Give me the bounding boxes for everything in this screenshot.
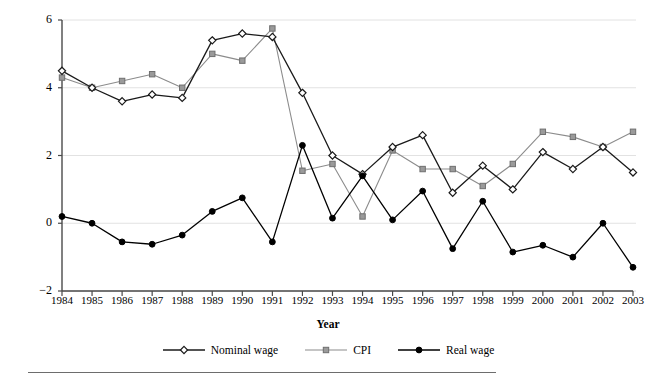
data-point-marker: [149, 241, 155, 247]
chart-figure: Annual percentage change Year −20246 198…: [0, 0, 656, 380]
data-point-marker: [330, 215, 336, 221]
data-point-marker: [330, 161, 335, 166]
data-point-marker: [480, 183, 485, 188]
series-line: [62, 145, 633, 267]
legend-label: Nominal wage: [211, 344, 278, 356]
series-real-wage: [59, 142, 636, 270]
data-point-marker: [360, 173, 366, 179]
data-point-marker: [510, 161, 515, 166]
data-point-marker: [300, 142, 306, 148]
data-point-marker: [239, 30, 246, 37]
data-point-marker: [119, 239, 125, 245]
x-tick-label: 2003: [613, 294, 653, 306]
data-point-marker: [269, 239, 275, 245]
data-point-marker: [240, 58, 245, 63]
legend-swatch: [397, 344, 441, 356]
data-point-marker: [540, 129, 545, 134]
series-line: [62, 28, 633, 216]
legend-label: Real wage: [446, 344, 494, 356]
data-point-marker: [179, 94, 186, 101]
data-point-marker: [450, 166, 455, 171]
series-nominal-wage: [58, 30, 636, 196]
data-point-marker: [149, 72, 154, 77]
data-point-marker: [179, 232, 185, 238]
data-point-marker: [360, 214, 365, 219]
data-point-marker: [600, 220, 606, 226]
data-point-marker: [180, 346, 187, 353]
data-point-marker: [209, 208, 215, 214]
footer-divider: [28, 372, 496, 373]
data-point-marker: [119, 98, 126, 105]
data-point-marker: [570, 134, 575, 139]
data-point-marker: [119, 78, 124, 83]
data-point-marker: [570, 254, 576, 260]
data-point-marker: [420, 166, 425, 171]
data-point-marker: [323, 347, 328, 352]
data-point-marker: [630, 129, 635, 134]
data-point-marker: [59, 75, 64, 80]
data-point-marker: [419, 132, 426, 139]
data-point-marker: [210, 51, 215, 56]
data-point-marker: [89, 220, 95, 226]
data-point-marker: [59, 214, 65, 220]
y-tick-label: 6: [28, 12, 52, 27]
data-point-marker: [300, 168, 305, 173]
data-point-marker: [299, 89, 306, 96]
chart-legend: Nominal wageCPIReal wage: [0, 344, 656, 356]
data-point-marker: [239, 195, 245, 201]
data-point-marker: [630, 264, 636, 270]
data-point-marker: [329, 152, 336, 159]
data-point-marker: [390, 217, 396, 223]
legend-swatch: [162, 344, 206, 356]
legend-item[interactable]: Real wage: [397, 344, 494, 356]
data-point-marker: [450, 246, 456, 252]
legend-item[interactable]: Nominal wage: [162, 344, 278, 356]
data-point-marker: [180, 85, 185, 90]
y-tick-label: 2: [28, 148, 52, 163]
line-chart-plot: [0, 0, 656, 380]
legend-item[interactable]: CPI: [304, 344, 371, 356]
y-tick-label: 0: [28, 215, 52, 230]
series-cpi: [59, 26, 635, 219]
legend-swatch: [304, 344, 348, 356]
legend-label: CPI: [353, 344, 371, 356]
data-point-marker: [540, 242, 546, 248]
data-point-marker: [420, 188, 426, 194]
data-point-marker: [270, 26, 275, 31]
data-point-marker: [149, 91, 156, 98]
series-line: [62, 34, 633, 193]
data-point-marker: [416, 347, 422, 353]
y-tick-label: 4: [28, 80, 52, 95]
data-point-marker: [209, 37, 216, 44]
data-point-marker: [58, 67, 65, 74]
data-point-marker: [480, 198, 486, 204]
data-point-marker: [510, 249, 516, 255]
